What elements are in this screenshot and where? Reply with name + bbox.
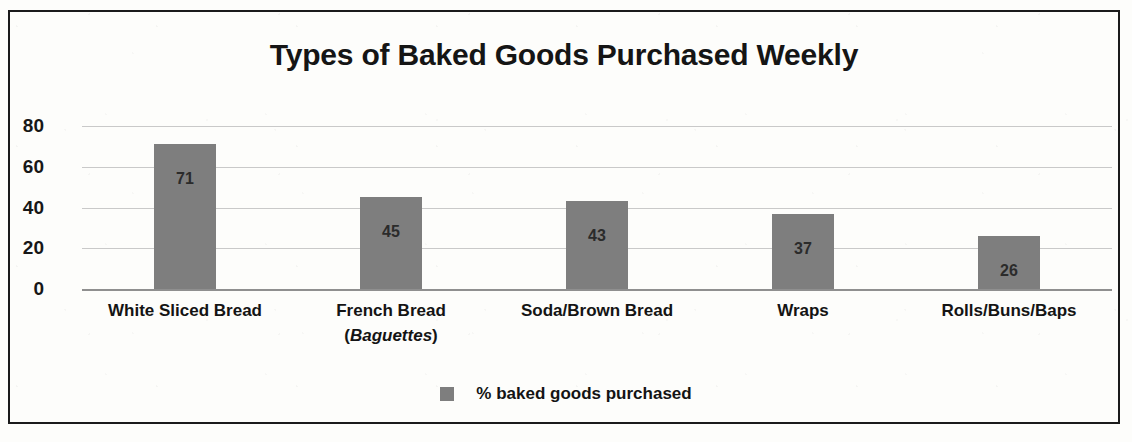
x-axis-category-label: French Bread(Baguettes) — [288, 298, 494, 348]
y-axis-tick-label: 60 — [0, 156, 44, 178]
bar-value-label: 26 — [978, 262, 1040, 280]
y-axis-tick-label: 80 — [0, 115, 44, 137]
bar[interactable]: 71 — [154, 144, 216, 289]
bar-value-label: 37 — [772, 240, 834, 258]
x-axis-category-label: White Sliced Bread — [82, 298, 288, 323]
bar-slot: 71 — [82, 114, 288, 289]
bar[interactable]: 37 — [772, 214, 834, 289]
legend-label: % baked goods purchased — [476, 384, 691, 404]
bar[interactable]: 43 — [566, 201, 628, 289]
bar-slot: 37 — [700, 114, 906, 289]
chart-frame: Types of Baked Goods Purchased Weekly 02… — [8, 10, 1120, 424]
bar-value-label: 45 — [360, 223, 422, 241]
bar-value-label: 71 — [154, 170, 216, 188]
legend-swatch-icon — [440, 387, 454, 401]
bar-value-label: 43 — [566, 227, 628, 245]
bar-slot: 43 — [494, 114, 700, 289]
x-axis-category-label: Wraps — [700, 298, 906, 323]
y-axis-tick-label: 0 — [0, 278, 44, 300]
y-axis-tick-label: 20 — [0, 237, 44, 259]
x-axis-category-label: Rolls/Buns/Baps — [906, 298, 1112, 323]
bar[interactable]: 26 — [978, 236, 1040, 289]
bar-slot: 45 — [288, 114, 494, 289]
y-axis-tick-label: 40 — [0, 197, 44, 219]
bar-slot: 26 — [906, 114, 1112, 289]
axis-baseline — [82, 289, 1112, 291]
x-axis-category-label: Soda/Brown Bread — [494, 298, 700, 323]
x-axis-category-labels: White Sliced BreadFrench Bread(Baguettes… — [82, 298, 1112, 360]
plot-area: 020406080 7145433726 — [82, 114, 1112, 289]
bar-series: 7145433726 — [82, 114, 1112, 289]
chart-legend: % baked goods purchased — [10, 384, 1122, 404]
bar[interactable]: 45 — [360, 197, 422, 289]
chart-title: Types of Baked Goods Purchased Weekly — [10, 38, 1118, 72]
